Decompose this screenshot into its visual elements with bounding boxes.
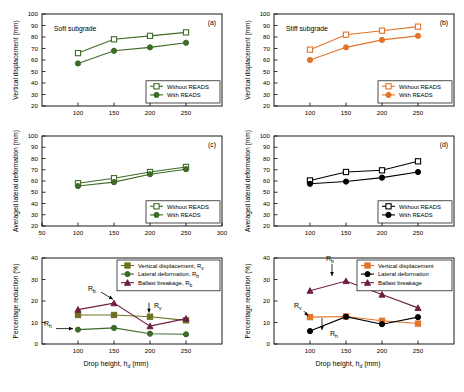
- data-marker: [415, 159, 420, 164]
- data-marker: [307, 181, 312, 186]
- data-marker: [415, 24, 420, 29]
- data-marker: [147, 314, 152, 319]
- y-tick-label: 30: [263, 91, 270, 98]
- data-marker: [154, 204, 159, 209]
- panel-b: 2030405060708090100100150200250Vertical …: [232, 2, 464, 126]
- data-marker: [415, 169, 420, 174]
- x-axis-title-unit: (mm): [130, 360, 148, 367]
- data-marker: [111, 48, 116, 53]
- x-tick-label: 150: [109, 109, 120, 116]
- x-tick-label: 150: [109, 347, 120, 354]
- panel-label-c: (c): [208, 141, 216, 149]
- x-tick-label: 250: [413, 229, 424, 236]
- y-tick-label: 80: [31, 155, 38, 162]
- legend-label: Ballast breakage: [378, 280, 423, 286]
- y-axis-label-b: Vertical displacement (mm): [244, 20, 252, 100]
- x-tick-label: 250: [181, 347, 192, 354]
- panel-c: 203040506070809010050100150200250300Aver…: [0, 126, 232, 250]
- data-marker: [75, 61, 80, 66]
- y-tick-label: 40: [263, 200, 270, 207]
- x-tick-label: 100: [73, 347, 84, 354]
- data-marker: [379, 168, 384, 173]
- data-marker: [365, 272, 370, 277]
- y-tick-label: 100: [260, 132, 271, 139]
- x-tick-label: 100: [305, 229, 316, 236]
- x-tick-label: 150: [341, 229, 352, 236]
- data-marker: [75, 312, 80, 317]
- y-tick-label: 30: [263, 276, 270, 283]
- y-axis-label-c: Averaged lateral deformation (mm): [12, 130, 20, 232]
- y-tick-label: 90: [263, 143, 270, 150]
- y-tick-label: 60: [263, 56, 270, 63]
- x-tick-label: 250: [181, 109, 192, 116]
- y-tick-label: 10: [31, 319, 38, 326]
- data-marker: [154, 212, 159, 217]
- y-tick-label: 50: [31, 188, 38, 195]
- x-tick-label: 150: [341, 347, 352, 354]
- data-marker: [343, 32, 348, 37]
- panel-label-b: (b): [440, 19, 448, 27]
- data-marker: [111, 312, 116, 317]
- x-axis-title-unit: (mm): [362, 360, 380, 367]
- legend-label: Without READS: [167, 204, 209, 210]
- data-marker: [147, 172, 152, 177]
- data-marker: [307, 47, 312, 52]
- y-tick-label: 80: [263, 155, 270, 162]
- y-tick-label: 20: [31, 297, 38, 304]
- x-tick-label: 100: [305, 347, 316, 354]
- panel-label-d: (d): [440, 141, 448, 149]
- x-tick-label: 100: [73, 229, 84, 236]
- legend-label: Without READS: [399, 84, 441, 90]
- data-marker: [147, 33, 152, 38]
- y-tick-label: 30: [31, 276, 38, 283]
- data-marker: [386, 92, 391, 97]
- data-marker: [379, 175, 384, 180]
- y-tick-label: 80: [263, 33, 270, 40]
- y-tick-label: 70: [31, 45, 38, 52]
- subgrade-annotation: Soft subgrade: [54, 25, 97, 33]
- y-tick-label: 50: [263, 68, 270, 75]
- data-marker: [386, 212, 391, 217]
- data-marker: [147, 331, 152, 336]
- y-tick-label: 20: [31, 222, 38, 229]
- data-marker: [125, 263, 130, 268]
- data-marker: [111, 37, 116, 42]
- data-marker: [154, 92, 159, 97]
- data-marker: [386, 84, 391, 89]
- x-axis-title-xaxis_title_right: Drop height, hd (mm): [232, 360, 464, 369]
- y-axis-label-d: Averaged lateral deformation (mm): [244, 130, 252, 232]
- subgrade-annotation: Stiff subgrade: [286, 25, 328, 33]
- y-tick-label: 20: [263, 222, 270, 229]
- y-tick-label: 70: [263, 45, 270, 52]
- panel-d: 2030405060708090100100150200250Averaged …: [232, 126, 464, 250]
- data-marker: [75, 183, 80, 188]
- y-tick-label: 40: [31, 79, 38, 86]
- data-marker: [386, 204, 391, 209]
- y-tick-label: 0: [267, 340, 271, 347]
- y-tick-label: 60: [263, 177, 270, 184]
- data-marker: [75, 51, 80, 56]
- y-tick-label: 90: [263, 22, 270, 29]
- y-tick-label: 90: [31, 22, 38, 29]
- y-tick-label: 50: [263, 188, 270, 195]
- y-tick-label: 60: [31, 56, 38, 63]
- data-marker: [379, 322, 384, 327]
- data-marker: [147, 45, 152, 50]
- y-tick-label: 70: [31, 166, 38, 173]
- y-tick-label: 60: [31, 177, 38, 184]
- y-tick-label: 80: [31, 33, 38, 40]
- y-tick-label: 90: [31, 143, 38, 150]
- x-tick-label: 200: [377, 229, 388, 236]
- x-axis-title-xaxis_title_left: Drop height, hd (mm): [0, 360, 232, 369]
- data-marker: [379, 28, 384, 33]
- y-tick-label: 100: [28, 10, 39, 17]
- data-marker: [111, 325, 116, 330]
- x-tick-label: 200: [145, 109, 156, 116]
- panel-f: 010203040100150200250Percentage reductio…: [232, 248, 464, 360]
- panel-a: 2030405060708090100100150200250Vertical …: [0, 2, 232, 126]
- x-axis-title-text: Drop height, h: [83, 360, 127, 367]
- y-tick-label: 40: [263, 79, 270, 86]
- data-marker: [415, 315, 420, 320]
- y-tick-label: 30: [31, 91, 38, 98]
- data-marker: [379, 37, 384, 42]
